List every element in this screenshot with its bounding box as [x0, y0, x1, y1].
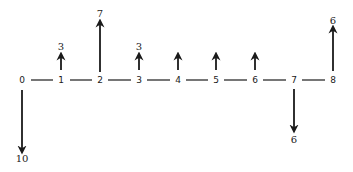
flow-label-period-8: 6	[330, 15, 336, 26]
period-2: 2	[97, 75, 103, 85]
period-3: 3	[136, 75, 142, 85]
period-labels: 0 1 2 3 4 5 6 7 8	[19, 75, 336, 85]
period-5: 5	[213, 75, 219, 85]
cash-flow-diagram: 0 1 2 3 4 5 6 7 8 10 3 7 3 6 6	[0, 0, 353, 172]
period-6: 6	[252, 75, 258, 85]
flow-label-period-2: 7	[97, 8, 103, 19]
period-8: 8	[330, 75, 336, 85]
flow-label-period-0: 10	[16, 153, 29, 164]
period-1: 1	[58, 75, 64, 85]
flow-label-period-3: 3	[136, 41, 142, 52]
period-7: 7	[291, 75, 297, 85]
period-4: 4	[175, 75, 181, 85]
flow-labels: 10 3 7 3 6 6	[16, 8, 337, 164]
flow-label-period-7: 6	[291, 134, 297, 145]
flow-arrows	[22, 23, 333, 150]
flow-label-period-1: 3	[58, 41, 64, 52]
period-0: 0	[19, 75, 25, 85]
